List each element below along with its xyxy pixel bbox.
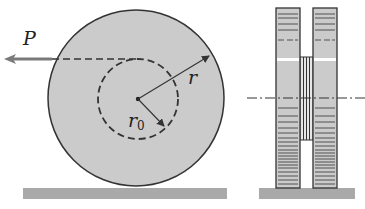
outer-disk [48, 10, 224, 186]
side-view [247, 8, 365, 199]
ground-side [259, 188, 355, 199]
force-arrow-p [4, 54, 52, 64]
wheel-diagram: P r r0 [0, 0, 365, 209]
front-view: P r r0 [4, 10, 227, 199]
force-label: P [22, 27, 37, 49]
ground-front [23, 188, 227, 199]
